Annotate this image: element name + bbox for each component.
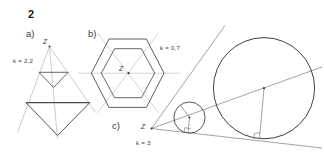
- ratio-label-b: k = 0,7: [160, 44, 180, 51]
- part-label-b: b): [88, 28, 96, 39]
- circle-small-center-dot: [189, 117, 191, 119]
- part-label-c: c): [112, 120, 120, 131]
- part-a-triangle-small: [39, 72, 68, 87]
- right-angle-mark-large-2: [255, 133, 261, 134]
- circle-large-center-dot: [263, 87, 265, 89]
- center-label-b: Z: [119, 65, 123, 72]
- ratio-label-a: k = 2,2: [13, 57, 33, 64]
- center-label-a: Z: [43, 38, 47, 45]
- radius-large-lower: [260, 88, 265, 138]
- triangle-large-a: [26, 103, 90, 136]
- radius-small-upper: [180, 105, 189, 118]
- centerline-c: [152, 67, 323, 129]
- center-point-b: [128, 72, 130, 74]
- part-c-circles: [174, 38, 315, 139]
- radius-small-lower: [188, 118, 190, 134]
- triangle-small-a: [39, 72, 68, 87]
- part-a-triangle-large: [26, 103, 90, 136]
- ratio-label-c: k = 3: [136, 139, 151, 146]
- right-angle-mark-small-2: [185, 128, 191, 129]
- center-point-c: [150, 127, 152, 129]
- homothety-diagram-svg: [0, 0, 324, 154]
- center-label-c: Z: [141, 123, 145, 130]
- ray-a-apex: [50, 47, 58, 140]
- geometry-figure-sheet: 2 a) k = 2,2 Z b) k = 0,7 Z c) k = 3 Z: [0, 0, 324, 154]
- exercise-number: 2: [28, 8, 34, 20]
- center-point-a: [49, 46, 51, 48]
- part-label-a: a): [26, 28, 34, 39]
